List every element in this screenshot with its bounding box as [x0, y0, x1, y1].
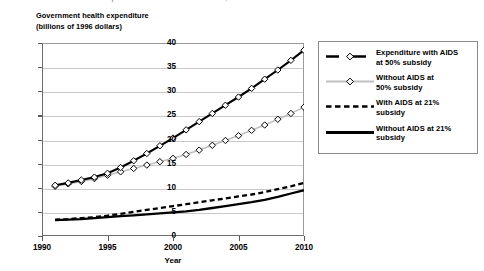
x-tick-mark	[239, 236, 240, 241]
y-tick-mark	[38, 188, 42, 189]
y-tick-label: 5	[146, 207, 176, 216]
legend-line-marker-black	[324, 49, 376, 62]
legend-label: Without AIDS at50% subsidy	[376, 73, 434, 92]
legend-item: Without AIDS at50% subsidy	[324, 73, 472, 92]
data-point-marker	[275, 116, 281, 122]
y-tick-label: 25	[146, 110, 176, 119]
legend-item: Expenditure with AIDSat 50% subsidy	[324, 48, 472, 67]
data-point-marker	[248, 127, 254, 133]
legend-label-line1: With AIDS at 21%	[376, 98, 439, 108]
x-tick-label: 2000	[151, 243, 195, 252]
legend-line-solid-black	[324, 125, 376, 138]
x-tick-mark	[304, 236, 305, 241]
y-tick-mark	[38, 140, 42, 141]
legend-label-line1: Without AIDS at	[376, 73, 434, 83]
x-tick-mark	[108, 236, 109, 241]
y-tick-label: 0	[146, 231, 176, 240]
y-tick-mark	[38, 43, 42, 44]
series-line	[55, 107, 304, 186]
legend-label-line2: subsidy	[376, 108, 439, 118]
data-point-marker	[209, 142, 215, 148]
series-line	[55, 183, 304, 220]
data-point-marker	[131, 165, 137, 171]
data-point-marker	[262, 122, 268, 128]
data-point-marker	[222, 137, 228, 143]
y-axis-title-line1: Government health expenditure	[36, 10, 266, 21]
x-tick-mark	[173, 236, 174, 241]
x-tick-label: 2010	[282, 243, 326, 252]
y-tick-mark	[38, 91, 42, 92]
x-tick-label: 2005	[217, 243, 261, 252]
x-axis-title: Year	[42, 256, 304, 265]
y-tick-label: 30	[146, 86, 176, 95]
x-tick-mark	[42, 236, 43, 241]
y-axis-title: Government health expenditure (billions …	[36, 10, 266, 32]
data-point-marker	[196, 147, 202, 153]
legend-label: Expenditure with AIDSat 50% subsidy	[376, 48, 458, 67]
y-tick-mark	[38, 212, 42, 213]
legend-item: Without AIDS at 21%subsidy	[324, 124, 472, 143]
data-point-marker	[301, 104, 304, 110]
data-point-marker	[288, 110, 294, 116]
y-tick-label: 15	[146, 159, 176, 168]
chart-legend: Expenditure with AIDSat 50% subsidyWitho…	[318, 41, 478, 154]
legend-label-line1: Without AIDS at 21%	[376, 124, 451, 134]
data-point-marker	[235, 132, 241, 138]
legend-item: With AIDS at 21%subsidy	[324, 98, 472, 117]
y-tick-mark	[38, 164, 42, 165]
data-point-marker	[347, 78, 354, 85]
legend-line-marker-gray	[324, 74, 376, 87]
y-tick-label: 40	[146, 38, 176, 47]
y-tick-label: 20	[146, 135, 176, 144]
data-point-marker	[183, 151, 189, 157]
data-point-marker	[347, 53, 354, 60]
y-tick-label: 35	[146, 62, 176, 71]
y-tick-mark	[38, 67, 42, 68]
series-line	[55, 50, 304, 185]
legend-label: Without AIDS at 21%subsidy	[376, 124, 451, 143]
y-axis-title-line2: (billions of 1996 dollars)	[36, 21, 266, 32]
x-tick-label: 1990	[20, 243, 64, 252]
chart-figure: Government health expenditure with and w…	[0, 0, 484, 271]
legend-label-line2: at 50% subsidy	[376, 58, 458, 68]
clipped-figure-title: Government health expenditure with and w…	[34, 0, 324, 2]
legend-label: With AIDS at 21%subsidy	[376, 98, 439, 117]
legend-line-dashed-black	[324, 99, 376, 112]
y-tick-label: 10	[146, 183, 176, 192]
x-tick-label: 1995	[86, 243, 130, 252]
legend-label-line1: Expenditure with AIDS	[376, 48, 458, 58]
y-tick-mark	[38, 115, 42, 116]
legend-label-line2: 50% subsidy	[376, 83, 434, 93]
legend-label-line2: subsidy	[376, 133, 451, 143]
